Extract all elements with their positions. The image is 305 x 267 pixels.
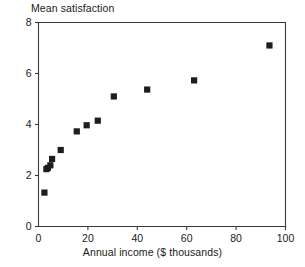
y-tick-label: 0 xyxy=(26,220,32,232)
y-axis-ticks: 02468 xyxy=(26,16,39,232)
x-axis-title: Annual income ($ thousands) xyxy=(0,246,305,258)
data-point-marker xyxy=(191,77,197,83)
plot-area: 02468 020406080100 xyxy=(0,0,305,267)
x-tick-label: 20 xyxy=(82,232,94,244)
axis-frame xyxy=(39,23,286,227)
data-point-marker xyxy=(144,86,150,92)
x-axis-ticks: 020406080100 xyxy=(36,227,295,244)
x-tick-label: 60 xyxy=(181,232,193,244)
data-point-marker xyxy=(266,42,272,48)
scatter-plot-figure: Mean satisfaction 02468 020406080100 Ann… xyxy=(0,0,305,267)
y-tick-label: 6 xyxy=(26,67,32,79)
x-tick-label: 40 xyxy=(131,232,143,244)
y-tick-label: 8 xyxy=(26,16,32,28)
x-tick-label: 0 xyxy=(36,232,42,244)
data-point-marker xyxy=(58,147,64,153)
x-tick-label: 80 xyxy=(230,232,242,244)
data-point-marker xyxy=(47,162,53,168)
y-tick-label: 2 xyxy=(26,169,32,181)
y-tick-label: 4 xyxy=(26,118,32,130)
data-point-marker xyxy=(111,93,117,99)
data-point-marker xyxy=(95,118,101,124)
x-tick-label: 100 xyxy=(277,232,295,244)
data-point-marker xyxy=(84,122,90,128)
data-point-series xyxy=(41,42,272,195)
data-point-marker xyxy=(41,189,47,195)
plot-frame-border xyxy=(39,23,286,227)
data-point-marker xyxy=(49,156,55,162)
data-point-marker xyxy=(74,128,80,134)
